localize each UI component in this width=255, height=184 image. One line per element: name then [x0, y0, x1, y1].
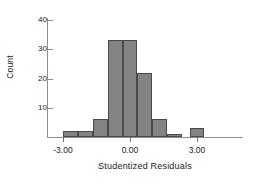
x-axis-label: Studentized Residuals: [47, 161, 243, 171]
x-tick-label: -3.00: [41, 146, 85, 155]
y-tick-40: [47, 20, 53, 21]
y-tick-30: [47, 49, 53, 50]
histogram-figure: 10203040 -3.000.003.00 Count Studentized…: [0, 0, 255, 184]
histogram-bar: [123, 40, 138, 137]
plot-area: 10203040 -3.000.003.00 Count Studentized…: [0, 0, 255, 184]
histogram-bar: [93, 119, 108, 137]
histogram-bar: [137, 73, 152, 137]
histogram-bar: [108, 40, 123, 137]
y-tick-label: 10: [21, 104, 47, 112]
y-tick-10: [47, 108, 53, 109]
y-axis-label: Count: [5, 41, 15, 93]
x-tick-0.00: [130, 137, 131, 142]
histogram-bar: [63, 131, 78, 137]
y-tick-label: 40: [21, 16, 47, 24]
y-tick-label-wrap: 20: [21, 75, 47, 83]
x-tick-3.00: [197, 137, 198, 142]
x-tick-label: 3.00: [175, 146, 219, 155]
x-tick-label: 0.00: [108, 146, 152, 155]
y-tick-label-wrap: 30: [21, 45, 47, 53]
x-axis-line: [47, 137, 243, 138]
histogram-bar: [152, 119, 167, 137]
histogram-bar: [167, 134, 182, 137]
histogram-bar: [78, 131, 93, 137]
y-tick-20: [47, 79, 53, 80]
y-tick-label: 30: [21, 45, 47, 53]
y-tick-label-wrap: 40: [21, 16, 47, 24]
x-tick--3.00: [63, 137, 64, 142]
y-tick-label-wrap: 10: [21, 104, 47, 112]
histogram-bar: [190, 128, 205, 137]
y-tick-label: 20: [21, 75, 47, 83]
